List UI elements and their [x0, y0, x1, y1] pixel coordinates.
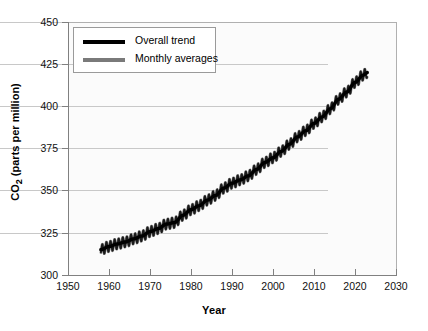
y-tick-label-425: 425: [24, 58, 58, 70]
legend-swatch-overall-trend: [83, 40, 125, 44]
monthly-averages-line: [101, 69, 368, 254]
plot-border-top: [68, 22, 397, 23]
x-tick-label-1980: 1980: [171, 280, 211, 292]
y-tick-label-325: 325: [24, 227, 58, 239]
y-tickmark-350: [62, 190, 69, 191]
y-tick-label-450: 450: [24, 16, 58, 28]
x-tickmark-1980: [191, 269, 192, 276]
y-axis-title-wrapper: CO2 (parts per million): [9, 67, 25, 217]
x-tick-label-2030: 2030: [376, 280, 416, 292]
y-axis-title-subscript: 2: [14, 179, 24, 184]
y-axis-title-base: CO: [9, 184, 21, 201]
legend-label-overall-trend: Overall trend: [135, 34, 195, 46]
y-axis-line: [68, 22, 69, 276]
legend-swatch-monthly-averages: [83, 58, 125, 62]
x-tick-label-2020: 2020: [335, 280, 375, 292]
y-tick-label-400: 400: [24, 100, 58, 112]
x-tickmark-2000: [273, 269, 274, 276]
plot-border-right: [396, 22, 397, 276]
y-tickmark-325: [62, 233, 69, 234]
x-tickmark-2010: [314, 269, 315, 276]
y-tickmark-375: [62, 148, 69, 149]
overall-trend-line: [101, 73, 368, 250]
chart-legend: Overall trend Monthly averages: [73, 27, 216, 73]
x-tick-label-1960: 1960: [89, 280, 129, 292]
y-axis-title-rest: (parts per million): [9, 83, 21, 179]
x-tickmark-1950: [68, 269, 69, 276]
x-tickmark-2030: [396, 269, 397, 276]
x-tick-label-2010: 2010: [294, 280, 334, 292]
co2-keeling-curve-figure: 450 425 400 375 350 325 300 1950 1960 19…: [0, 0, 428, 331]
y-axis-title: CO2 (parts per million): [9, 67, 24, 217]
x-tick-label-1970: 1970: [130, 280, 170, 292]
y-tickmark-425: [62, 64, 69, 65]
y-tickmark-450: [62, 22, 69, 23]
x-tickmark-1970: [150, 269, 151, 276]
y-tick-label-350: 350: [24, 184, 58, 196]
y-tick-label-375: 375: [24, 142, 58, 154]
x-tickmark-1990: [232, 269, 233, 276]
x-tickmark-1960: [109, 269, 110, 276]
x-axis-title: Year: [0, 304, 428, 316]
monthly-oscillation-overlay: [101, 69, 368, 254]
legend-label-monthly-averages: Monthly averages: [135, 52, 218, 64]
x-tickmark-2020: [355, 269, 356, 276]
x-tick-label-1950: 1950: [48, 280, 88, 292]
y-tickmark-400: [62, 106, 69, 107]
x-tick-label-2000: 2000: [253, 280, 293, 292]
x-tick-label-1990: 1990: [212, 280, 252, 292]
